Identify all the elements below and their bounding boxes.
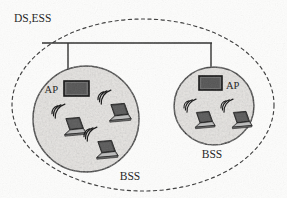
- page-title: DS,ESS: [14, 12, 51, 25]
- access-point-label: AP: [45, 84, 59, 95]
- access-point-inner: [201, 78, 220, 88]
- bss-label: BSS: [120, 170, 140, 182]
- wlan-ess-diagram: AP BSS AP BSS DS,ESS: [0, 0, 287, 198]
- bss-label: BSS: [202, 148, 222, 160]
- diagram-canvas: AP BSS AP BSS DS,ESS: [0, 0, 287, 198]
- access-point-inner: [67, 83, 87, 94]
- access-point-label: AP: [226, 80, 240, 91]
